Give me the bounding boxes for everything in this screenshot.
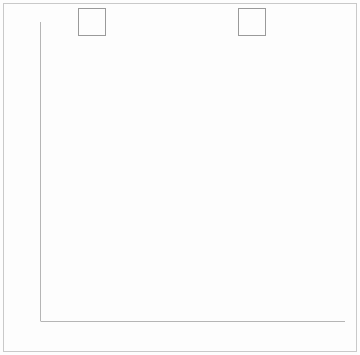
- plot-area: [0, 0, 360, 355]
- chart-figure: [0, 0, 360, 355]
